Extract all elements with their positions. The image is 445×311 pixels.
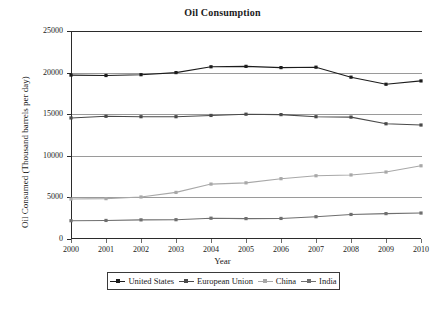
x-tick-label: 2010 bbox=[401, 246, 441, 254]
chart-title: Oil Consumption bbox=[0, 7, 445, 18]
x-tick-mark bbox=[351, 239, 352, 243]
legend-item[interactable]: India bbox=[300, 277, 337, 286]
x-axis-title: Year bbox=[0, 256, 445, 266]
oil-consumption-chart: Oil Consumption 050001000015000200002500… bbox=[0, 0, 445, 311]
legend-item[interactable]: United States bbox=[109, 277, 175, 286]
gridline bbox=[72, 114, 422, 115]
y-tick-label: 0 bbox=[29, 235, 63, 243]
y-tick-mark bbox=[67, 114, 71, 115]
y-tick-label: 5000 bbox=[29, 193, 63, 201]
x-tick-label: 2002 bbox=[121, 246, 161, 254]
legend-label: India bbox=[319, 277, 336, 286]
y-tick-mark bbox=[67, 73, 71, 74]
legend-label: European Union bbox=[197, 277, 253, 286]
legend-swatch-icon bbox=[110, 278, 125, 285]
y-axis-title: Oil Consumed (Thousand barrels per day) bbox=[20, 76, 30, 228]
x-tick-label: 2006 bbox=[261, 246, 301, 254]
x-tick-label: 2009 bbox=[366, 246, 406, 254]
chart-legend: United StatesEuropean UnionChinaIndia bbox=[107, 272, 340, 290]
legend-item[interactable]: European Union bbox=[178, 277, 254, 286]
legend-swatch-icon bbox=[179, 278, 194, 285]
legend-label: China bbox=[276, 277, 296, 286]
x-tick-label: 2000 bbox=[51, 246, 91, 254]
x-tick-label: 2007 bbox=[296, 246, 336, 254]
x-tick-mark bbox=[176, 239, 177, 243]
gridline bbox=[72, 156, 422, 157]
y-tick-label: 15000 bbox=[29, 110, 63, 118]
x-tick-label: 2001 bbox=[86, 246, 126, 254]
x-tick-label: 2008 bbox=[331, 246, 371, 254]
x-tick-mark bbox=[386, 239, 387, 243]
y-tick-label: 20000 bbox=[29, 69, 63, 77]
legend-label: United States bbox=[128, 277, 174, 286]
x-tick-mark bbox=[421, 239, 422, 243]
gridline bbox=[72, 197, 422, 198]
legend-swatch-icon bbox=[301, 278, 316, 285]
x-tick-mark bbox=[141, 239, 142, 243]
gridline bbox=[72, 31, 422, 32]
gridline bbox=[72, 73, 422, 74]
y-tick-label: 25000 bbox=[29, 27, 63, 35]
plot-area bbox=[71, 31, 421, 239]
x-tick-mark bbox=[71, 239, 72, 243]
x-tick-label: 2003 bbox=[156, 246, 196, 254]
legend-swatch-icon bbox=[258, 278, 273, 285]
y-tick-mark bbox=[67, 31, 71, 32]
y-tick-mark bbox=[67, 156, 71, 157]
x-tick-mark bbox=[106, 239, 107, 243]
x-tick-label: 2004 bbox=[191, 246, 231, 254]
y-tick-mark bbox=[67, 197, 71, 198]
y-tick-label: 10000 bbox=[29, 152, 63, 160]
x-tick-mark bbox=[316, 239, 317, 243]
x-tick-mark bbox=[211, 239, 212, 243]
x-tick-mark bbox=[246, 239, 247, 243]
x-tick-mark bbox=[281, 239, 282, 243]
x-tick-label: 2005 bbox=[226, 246, 266, 254]
legend-item[interactable]: China bbox=[257, 277, 297, 286]
